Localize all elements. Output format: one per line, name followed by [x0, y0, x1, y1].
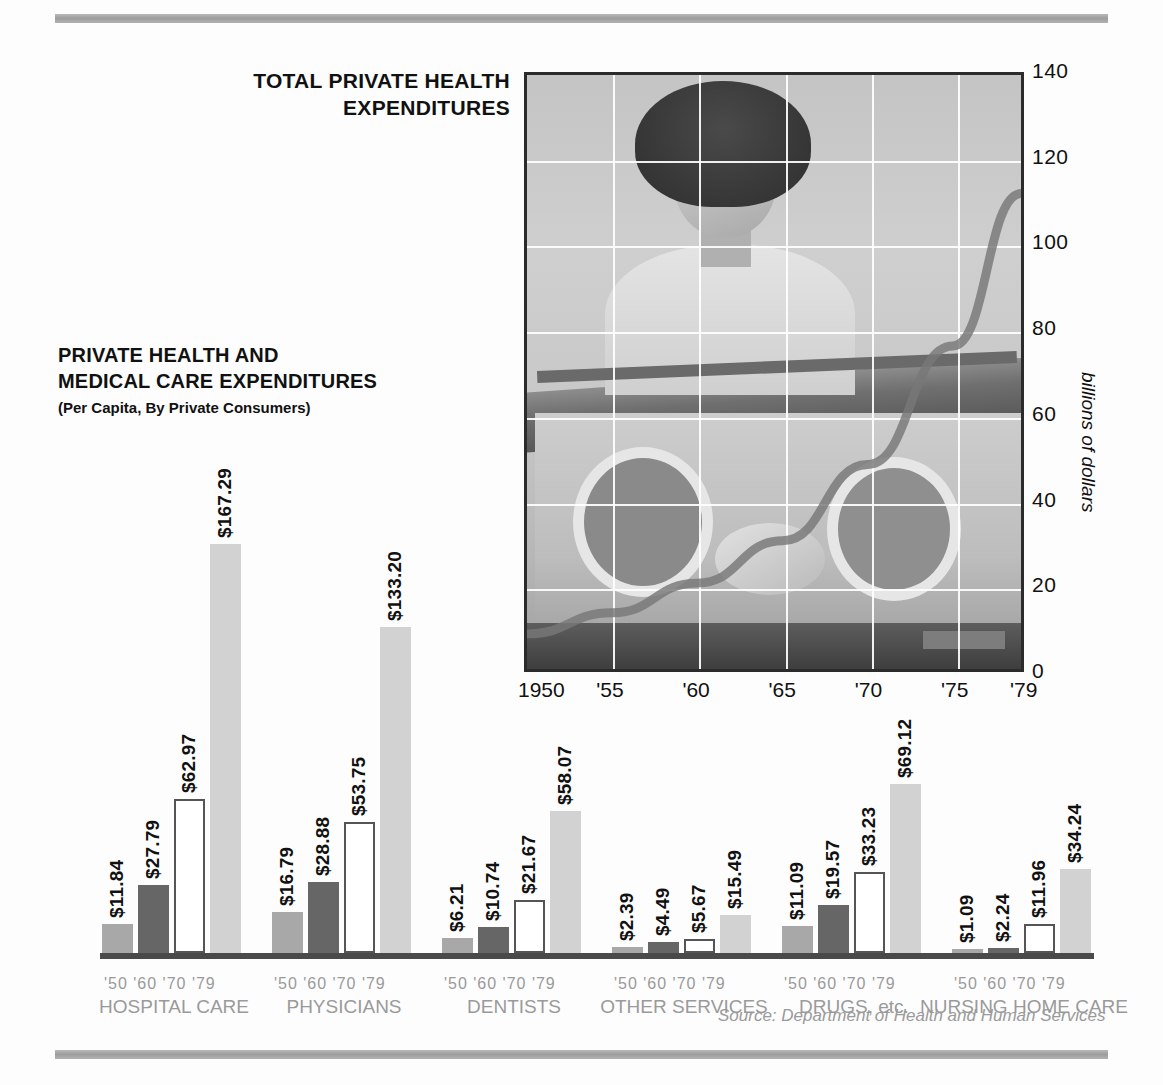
top-divider-rule	[55, 14, 1108, 23]
bar-other-services-70	[684, 939, 715, 953]
bottom-divider-rule	[55, 1050, 1108, 1059]
bar-physicians-60	[308, 882, 339, 953]
bar-nursing-home-care-70	[1024, 924, 1055, 953]
bar-value-label: $133.20	[384, 551, 406, 621]
bar-chart-baseline	[100, 953, 1094, 959]
bar-hospital-care-79	[210, 544, 241, 953]
bar-drugs-etc--79	[890, 784, 921, 953]
bar-value-label: $6.21	[446, 883, 468, 932]
bar-value-label: $34.24	[1064, 804, 1086, 863]
bar-value-label: $5.67	[688, 885, 710, 934]
bar-other-services-60	[648, 942, 679, 953]
bar-drugs-etc--50	[782, 926, 813, 953]
y-axis-tick: 120	[1032, 145, 1069, 169]
bar-value-label: $62.97	[178, 734, 200, 793]
bar-dentists-50	[442, 938, 473, 953]
year-tick-labels: '50 '60 '70 '79	[444, 975, 556, 993]
bar-physicians-70	[344, 822, 375, 953]
bar-other-services-79	[720, 915, 751, 953]
bar-value-label: $27.79	[142, 820, 164, 879]
year-tick-labels: '50 '60 '70 '79	[784, 975, 896, 993]
bar-value-label: $53.75	[348, 756, 370, 815]
y-axis-tick: 60	[1032, 402, 1056, 426]
bar-physicians-50	[272, 912, 303, 953]
bar-dentists-60	[478, 927, 509, 953]
bar-dentists-79	[550, 811, 581, 953]
bar-nursing-home-care-79	[1060, 869, 1091, 953]
bar-chart-title-line2: MEDICAL CARE EXPENDITURES	[58, 368, 377, 394]
bar-physicians-79	[380, 627, 411, 953]
year-tick-labels: '50 '60 '70 '79	[104, 975, 216, 993]
bar-hospital-care-70	[174, 799, 205, 953]
source-note: Source: Department of Health and Human S…	[718, 1006, 1105, 1026]
bar-value-label: $69.12	[894, 719, 916, 778]
bar-value-label: $16.79	[276, 847, 298, 906]
bar-value-label: $19.57	[822, 840, 844, 899]
bar-value-label: $28.88	[312, 817, 334, 876]
bar-chart-title-line1: PRIVATE HEALTH AND	[58, 342, 377, 368]
bar-value-label: $33.23	[858, 806, 880, 865]
bar-value-label: $167.29	[214, 468, 236, 538]
bar-value-label: $4.49	[652, 887, 674, 936]
year-tick-labels: '50 '60 '70 '79	[274, 975, 386, 993]
y-axis-tick: 100	[1032, 230, 1069, 254]
bar-value-label: $11.96	[1028, 860, 1050, 918]
bar-value-label: $2.24	[992, 893, 1014, 942]
category-label: PHYSICIANS	[286, 996, 401, 1018]
bar-hospital-care-60	[138, 885, 169, 953]
line-chart-title: TOTAL PRIVATE HEALTH EXPENDITURES	[150, 68, 510, 122]
bar-chart-title: PRIVATE HEALTH AND MEDICAL CARE EXPENDIT…	[58, 342, 377, 394]
bar-value-label: $10.74	[482, 861, 504, 920]
bar-chart-subtitle: (Per Capita, By Private Consumers)	[58, 399, 311, 416]
y-axis-tick: 80	[1032, 316, 1056, 340]
category-label: HOSPITAL CARE	[99, 996, 249, 1018]
bar-chart: $11.84$27.79$62.97$167.29$16.79$28.88$53…	[80, 470, 1100, 970]
bar-value-label: $1.09	[956, 894, 978, 943]
bar-value-label: $21.67	[518, 835, 540, 894]
bar-dentists-70	[514, 900, 545, 953]
year-tick-labels: '50 '60 '70 '79	[614, 975, 726, 993]
y-axis-tick: 140	[1032, 59, 1069, 83]
bar-drugs-etc--70	[854, 872, 885, 953]
bar-value-label: $15.49	[724, 850, 746, 909]
year-tick-labels: '50 '60 '70 '79	[954, 975, 1066, 993]
bar-value-label: $2.39	[616, 893, 638, 942]
bar-value-label: $11.09	[786, 862, 808, 920]
bar-drugs-etc--60	[818, 905, 849, 953]
category-label: DENTISTS	[467, 996, 561, 1018]
bar-value-label: $58.07	[554, 746, 576, 805]
bar-value-label: $11.84	[106, 860, 128, 918]
bar-hospital-care-50	[102, 924, 133, 953]
